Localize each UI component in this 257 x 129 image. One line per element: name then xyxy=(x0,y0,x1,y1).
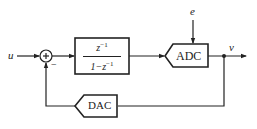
tf-denominator: 1−z−1 xyxy=(90,58,113,73)
input-label: u xyxy=(8,50,14,61)
output-node-dot xyxy=(222,54,226,58)
tf-numerator: z−1 xyxy=(96,39,107,54)
output-label: v xyxy=(229,42,234,53)
dac-label: DAC xyxy=(88,100,111,111)
adc-label: ADC xyxy=(176,50,201,62)
fraction-bar xyxy=(83,56,121,57)
feedback-sign: − xyxy=(51,60,57,70)
transfer-function: z−1 1−z−1 xyxy=(75,38,129,74)
noise-label: e xyxy=(190,6,195,17)
